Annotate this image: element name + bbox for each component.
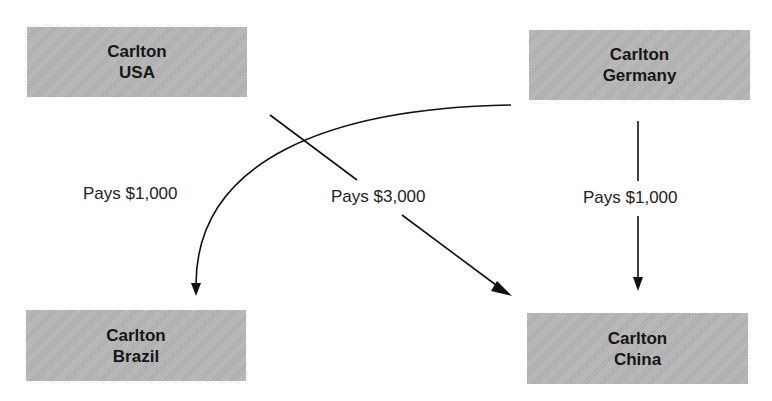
node-line1: Carlton	[107, 41, 167, 62]
node-carlton-china: Carlton China	[527, 313, 748, 384]
edge-usa-china-lower	[402, 215, 500, 288]
arrowhead-brazil-icon	[191, 283, 201, 296]
node-line1: Carlton	[608, 328, 668, 349]
node-carlton-germany: Carlton Germany	[529, 30, 750, 100]
node-line2: USA	[119, 62, 155, 83]
node-carlton-brazil: Carlton Brazil	[26, 310, 246, 381]
node-line2: China	[614, 349, 661, 370]
node-line1: Carlton	[106, 325, 166, 346]
node-line2: Brazil	[113, 346, 159, 367]
edge-label-germany-china: Pays $1,000	[583, 188, 678, 208]
node-line1: Carlton	[610, 44, 670, 65]
node-carlton-usa: Carlton USA	[27, 27, 247, 97]
edge-usa-china-upper	[270, 115, 357, 180]
arrowhead-china-vertical-icon	[633, 277, 643, 291]
node-line2: Germany	[603, 65, 677, 86]
edge-label-germany-brazil: Pays $1,000	[83, 184, 178, 204]
edge-label-usa-china: Pays $3,000	[331, 187, 426, 207]
